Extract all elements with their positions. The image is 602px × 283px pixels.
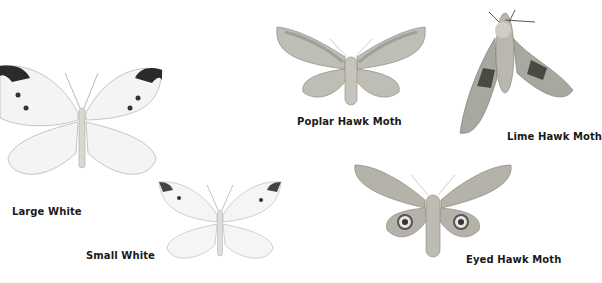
eyed-hawk-moth-label: Eyed Hawk Moth bbox=[466, 254, 561, 265]
eyed-hawk-moth-illustration bbox=[353, 160, 513, 258]
lime-hawk-moth-illustration bbox=[455, 8, 580, 136]
poplar-hawk-moth-label: Poplar Hawk Moth bbox=[297, 116, 402, 127]
small-white-label: Small White bbox=[86, 250, 155, 261]
lime-hawk-moth-label: Lime Hawk Moth bbox=[507, 131, 602, 142]
poplar-hawk-moth-illustration bbox=[275, 17, 427, 107]
small-white-illustration bbox=[157, 180, 283, 265]
large-white-label: Large White bbox=[12, 206, 82, 217]
large-white-illustration bbox=[0, 58, 165, 183]
